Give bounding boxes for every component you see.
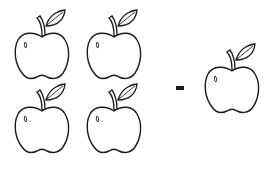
- apple-icon: [85, 82, 143, 158]
- apple-icon: [203, 42, 261, 118]
- apple-icon: [85, 8, 143, 84]
- apple-icon: [13, 8, 71, 84]
- minus-sign: -: [176, 86, 184, 90]
- apple-icon: [13, 82, 71, 158]
